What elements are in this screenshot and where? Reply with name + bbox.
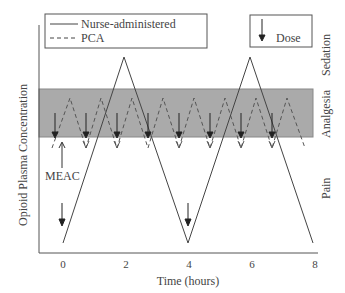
legend-nurse-label: Nurse-administered <box>81 17 176 31</box>
pca-trough-marks <box>83 141 275 148</box>
nurse-dose-arrows <box>59 203 191 226</box>
chart: MEAC Nurse-administered PCA Dose Sedatio… <box>0 0 345 293</box>
zone-analgesia: Analgesia <box>319 89 333 138</box>
x-tick-6: 6 <box>249 258 255 270</box>
meac-arrow <box>59 142 65 168</box>
dose-legend-label: Dose <box>276 31 301 45</box>
x-axis-label: Time (hours) <box>157 274 220 288</box>
y-axis-label: Opioid Plasma Concentration <box>16 84 30 226</box>
x-tick-0: 0 <box>60 258 66 270</box>
legend-pca-label: PCA <box>81 31 105 45</box>
x-tick-2: 2 <box>123 258 129 270</box>
x-tick-8: 8 <box>312 258 318 270</box>
zone-pain: Pain <box>319 178 333 199</box>
x-tick-4: 4 <box>186 258 192 270</box>
meac-label: MEAC <box>45 169 80 183</box>
zone-sedation: Sedation <box>319 34 333 76</box>
